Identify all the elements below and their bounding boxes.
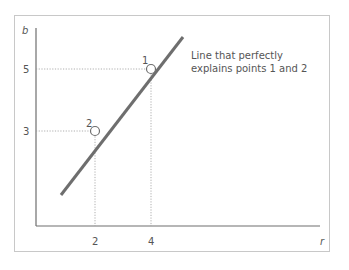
annotation-line-1: Line that perfectly: [191, 50, 283, 61]
y-tick-3: 3: [23, 126, 29, 137]
x-axis-label: r: [320, 236, 325, 247]
y-axis-label: b: [22, 25, 28, 36]
fitted-line: [61, 37, 183, 195]
diagram-canvas: b r 5 3 2 4 1 2 Line that perfectly expl…: [0, 0, 349, 270]
annotation-line-2: explains points 1 and 2: [191, 63, 307, 74]
point-1-label: 1: [142, 55, 148, 66]
x-tick-2: 2: [92, 236, 98, 247]
x-tick-4: 4: [148, 236, 154, 247]
y-tick-5: 5: [23, 64, 29, 75]
point-2-label: 2: [86, 118, 92, 129]
